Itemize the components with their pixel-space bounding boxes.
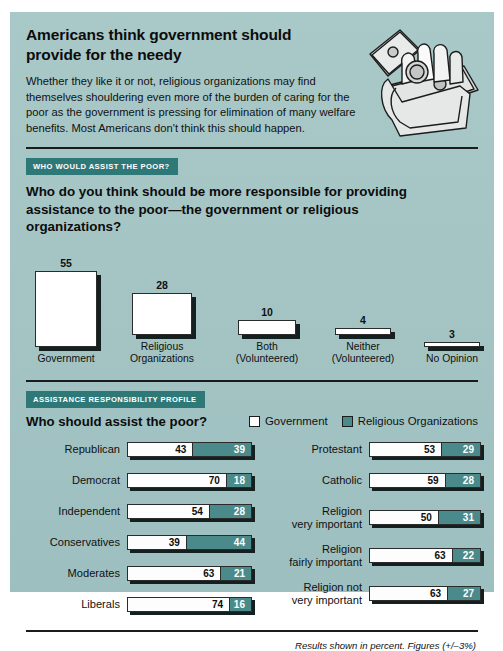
- bar-column-right: Protestant 53 29 Catholic 59 28 Religion…: [262, 438, 481, 624]
- segment-government: 54: [128, 505, 209, 518]
- row-label: Protestant: [262, 443, 369, 455]
- segment-government: 43: [128, 443, 192, 456]
- segment-value: 74: [212, 599, 229, 610]
- section-chip-2: ASSISTANCE RESPONSIBILITY PROFILE: [26, 391, 205, 408]
- table-row: Religion not very important 63 27: [262, 579, 481, 609]
- bar-rect: [132, 293, 192, 335]
- segment-government: 70: [128, 474, 226, 487]
- footnote: Results shown in percent. Figures (+/–3%…: [10, 640, 476, 651]
- page-title: Americans think government should provid…: [26, 12, 326, 65]
- segment-religious: 16: [229, 598, 251, 611]
- bar-value: 3: [414, 328, 490, 340]
- stacked-bar: 63 27: [369, 586, 481, 601]
- row-label: Republican: [24, 443, 127, 455]
- table-row: Republican 43 39: [24, 438, 252, 461]
- segment-value: 44: [234, 537, 251, 548]
- segment-government: 39: [128, 536, 186, 549]
- segment-value: 29: [463, 444, 480, 455]
- section-question-1: Who do you think should be more responsi…: [26, 183, 456, 235]
- segment-religious: 44: [186, 536, 251, 549]
- row-label: Conservatives: [24, 536, 127, 548]
- segment-value: 43: [175, 444, 192, 455]
- hand-holding-money-icon: [366, 24, 482, 142]
- legend-label: Government: [265, 415, 328, 427]
- segment-religious: 28: [445, 474, 480, 487]
- section-question-2: Who should assist the poor?: [26, 414, 207, 429]
- divider-bottom: [26, 630, 478, 632]
- bar-group-both: 10 Both (Volunteered): [224, 306, 310, 366]
- bar-group-government: 55 Government: [28, 257, 104, 365]
- segment-religious: 22: [452, 549, 480, 562]
- segment-religious: 28: [209, 505, 251, 518]
- segment-religious: 31: [438, 511, 480, 524]
- segment-value: 28: [234, 506, 251, 517]
- segment-government: 53: [370, 443, 441, 456]
- table-row: Religion very important 50 31: [262, 503, 481, 533]
- chart-legend: Government Religious Organizations: [249, 415, 478, 427]
- segment-value: 39: [234, 444, 251, 455]
- row-label: Religion fairly important: [262, 543, 369, 568]
- legend-label: Religious Organizations: [358, 415, 478, 427]
- table-row: Conservatives 39 44: [24, 531, 252, 554]
- segment-government: 63: [370, 549, 452, 562]
- legend-item-government: Government: [249, 415, 328, 427]
- legend-item-religious: Religious Organizations: [342, 415, 478, 427]
- stacked-bar: 39 44: [127, 535, 252, 550]
- stacked-bar: 53 29: [369, 442, 481, 457]
- stacked-bar: 74 16: [127, 597, 252, 612]
- row-label: Catholic: [262, 474, 369, 486]
- table-row: Moderates 63 21: [24, 562, 252, 585]
- segment-value: 28: [463, 475, 480, 486]
- segment-value: 21: [234, 568, 251, 579]
- row-label: Moderates: [24, 567, 127, 579]
- bar-rect: [335, 328, 391, 335]
- bar-value: 10: [224, 306, 310, 318]
- segment-value: 63: [203, 568, 220, 579]
- segment-value: 27: [463, 588, 480, 599]
- bar-rect: [238, 320, 296, 335]
- stacked-bar: 50 31: [369, 510, 481, 525]
- row-label: Liberals: [24, 598, 127, 610]
- vertical-bar-chart: 55 Government 28 Religious Organizations…: [28, 248, 476, 366]
- bar-value: 55: [28, 257, 104, 269]
- stacked-bar: 54 28: [127, 504, 252, 519]
- bar-rect: [424, 342, 480, 347]
- legend-row: Who should assist the poor? Government R…: [26, 414, 478, 429]
- stacked-bar: 70 18: [127, 473, 252, 488]
- row-label: Religion not very important: [262, 581, 369, 606]
- bar-rect: [35, 271, 97, 347]
- segment-government: 63: [128, 567, 220, 580]
- horizontal-bar-chart: Republican 43 39 Democrat 70 18 Independ…: [24, 438, 478, 624]
- table-row: Democrat 70 18: [24, 469, 252, 492]
- segment-government: 74: [128, 598, 229, 611]
- table-row: Protestant 53 29: [262, 438, 481, 461]
- segment-value: 63: [434, 550, 451, 561]
- bar-label: Both (Volunteered): [224, 341, 310, 366]
- segment-government: 50: [370, 511, 438, 524]
- segment-religious: 29: [441, 443, 480, 456]
- segment-religious: 18: [226, 474, 251, 487]
- table-row: Catholic 59 28: [262, 469, 481, 492]
- segment-value: 16: [234, 599, 251, 610]
- table-row: Liberals 74 16: [24, 593, 252, 616]
- bar-group-neither: 4 Neither (Volunteered): [320, 314, 406, 366]
- infographic-panel: Americans think government should provid…: [10, 12, 494, 592]
- bar-value: 4: [320, 314, 406, 326]
- segment-religious: 27: [447, 587, 480, 600]
- row-label: Religion very important: [262, 505, 369, 530]
- stacked-bar: 43 39: [127, 442, 252, 457]
- segment-value: 22: [463, 550, 480, 561]
- bar-group-no-opinion: 3 No Opinion: [414, 328, 490, 365]
- stacked-bar: 59 28: [369, 473, 481, 488]
- segment-value: 50: [421, 512, 438, 523]
- bar-label: Religious Organizations: [120, 341, 204, 366]
- segment-value: 39: [169, 537, 186, 548]
- table-row: Independent 54 28: [24, 500, 252, 523]
- bar-label: Neither (Volunteered): [320, 341, 406, 366]
- segment-value: 70: [209, 475, 226, 486]
- legend-swatch-icon: [342, 416, 353, 427]
- intro-paragraph: Whether they like it or not, religious o…: [26, 74, 358, 138]
- segment-value: 59: [427, 475, 444, 486]
- segment-government: 63: [370, 587, 447, 600]
- row-label: Independent: [24, 505, 127, 517]
